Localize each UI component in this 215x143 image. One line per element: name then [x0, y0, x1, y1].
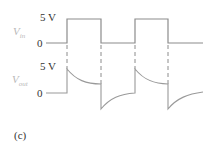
- transition-markers: [67, 45, 168, 84]
- waveform-plot: [0, 0, 215, 143]
- vin-waveform: [46, 19, 203, 43]
- vout-waveform: [46, 69, 203, 109]
